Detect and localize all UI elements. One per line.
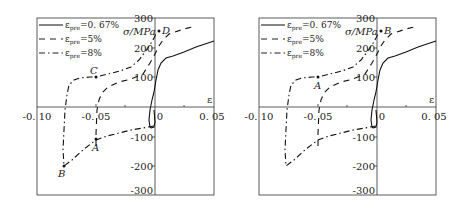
- y-tick-neg200: -200: [353, 161, 375, 172]
- plot-frame: [259, 18, 436, 195]
- point-label-a: A: [91, 142, 99, 153]
- y-tick-neg100: -100: [131, 132, 153, 143]
- right-chart: 300 200 100 -100 -200 -300 -0. 10 -0. 05…: [245, 13, 447, 196]
- y-axis-label: σ/MPa: [123, 26, 156, 37]
- legend-item-8: εpre=8%: [287, 48, 324, 60]
- legend: εpre=0. 67% εpre=5% εpre=8%: [261, 20, 341, 60]
- point-label-d: D: [161, 25, 170, 36]
- legend-item-067: εpre=0. 67%: [287, 20, 341, 32]
- point-label-c: C: [90, 65, 98, 76]
- x-tick-zero: 0: [379, 111, 385, 122]
- y-tick-200: 200: [356, 43, 375, 54]
- point-label-b: B: [57, 168, 65, 179]
- y-tick-200: 200: [134, 43, 153, 54]
- x-tick-neg005: -0. 05: [82, 111, 111, 122]
- legend-item-067: εpre=0. 67%: [65, 20, 119, 32]
- figure: 300 200 100 -100 -200 -300 -0. 10 -0. 05…: [0, 0, 467, 208]
- legend: εpre=0. 67% εpre=5% εpre=8%: [39, 20, 119, 60]
- x-tick-005: 0. 05: [199, 111, 224, 122]
- y-axis-label: σ/MPa: [345, 26, 378, 37]
- left-chart: 300 200 100 -100 -200 -300 -0. 10 -0. 05…: [23, 13, 225, 196]
- x-tick-neg010: -0. 10: [23, 111, 52, 122]
- y-tick-neg200: -200: [131, 161, 153, 172]
- x-tick-neg010: -0. 10: [245, 111, 274, 122]
- y-tick-neg100: -100: [353, 132, 375, 143]
- x-axis-label: ε: [207, 94, 212, 105]
- x-tick-zero: 0: [157, 111, 163, 122]
- point-label-a: A: [313, 80, 321, 91]
- x-tick-005: 0. 05: [421, 111, 446, 122]
- legend-item-5: εpre=5%: [65, 34, 102, 46]
- legend-item-5: εpre=5%: [287, 34, 324, 46]
- x-axis-label: ε: [429, 94, 434, 105]
- point-label-b: B: [383, 25, 391, 36]
- x-tick-neg005: -0. 05: [304, 111, 333, 122]
- y-tick-neg300: -300: [353, 185, 375, 196]
- y-tick-300: 300: [356, 13, 375, 24]
- y-tick-neg300: -300: [131, 185, 153, 196]
- legend-item-8: εpre=8%: [65, 48, 102, 60]
- y-tick-300: 300: [134, 13, 153, 24]
